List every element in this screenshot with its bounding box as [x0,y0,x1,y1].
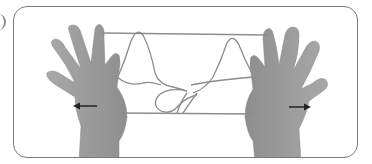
illustration-frame [13,6,358,158]
left-hand [47,25,127,158]
right-hand [245,27,328,157]
partial-figure-label [0,14,6,30]
string-loops [102,32,269,114]
string-figure-illustration [14,7,357,157]
